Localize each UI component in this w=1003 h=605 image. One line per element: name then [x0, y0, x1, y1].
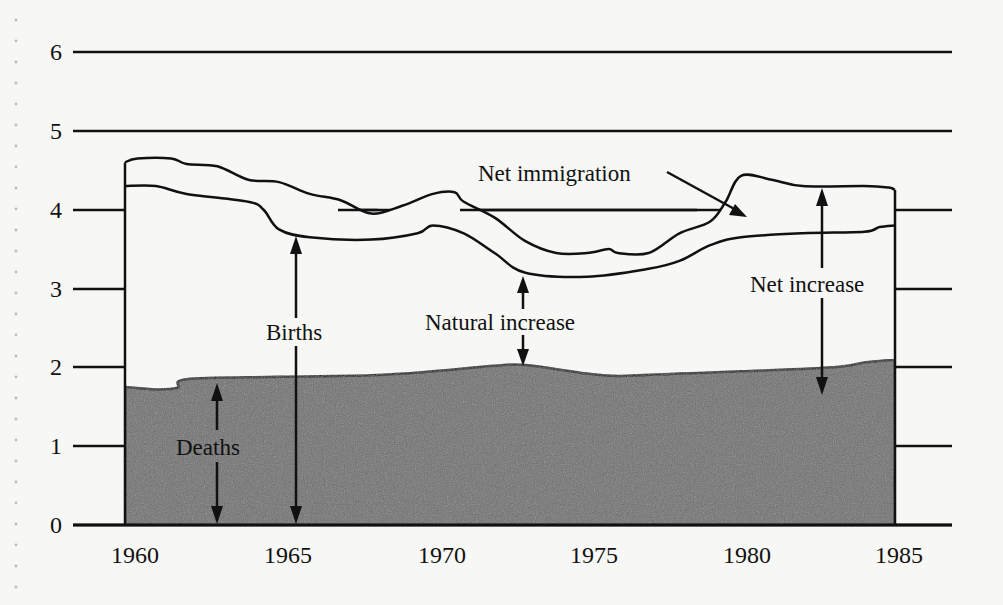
- y-tick-3: 3: [50, 276, 62, 302]
- x-tick-1970: 1970: [418, 542, 466, 568]
- margin-dot: [15, 586, 18, 589]
- margin-dot: [15, 229, 18, 232]
- margin-dot: [15, 166, 18, 169]
- y-tick-6: 6: [50, 39, 62, 65]
- margin-dot: [15, 334, 18, 337]
- margin-dot: [15, 271, 18, 274]
- margin-dot: [15, 208, 18, 211]
- margin-dot: [15, 187, 18, 190]
- margin-dot: [15, 40, 18, 43]
- margin-dot: [15, 61, 18, 64]
- label-natural-increase: Natural increase: [425, 310, 575, 335]
- label-net-increase: Net increase: [750, 272, 864, 297]
- margin-dot: [15, 523, 18, 526]
- net-immigration-arrow: [667, 172, 738, 211]
- y-tick-5: 5: [50, 118, 62, 144]
- margin-dot: [15, 565, 18, 568]
- label-net-immigration: Net immigration: [478, 161, 631, 186]
- margin-dot: [15, 481, 18, 484]
- x-tick-1980: 1980: [723, 542, 771, 568]
- margin-dot: [15, 460, 18, 463]
- margin-dot: [15, 82, 18, 85]
- margin-dot: [15, 103, 18, 106]
- margin-dot: [15, 502, 18, 505]
- population-change-chart: 6 5 4 3 2 1 0 1960 1965 1970 1975 1980 1…: [0, 0, 1003, 605]
- margin-dot: [15, 439, 18, 442]
- margin-dot: [15, 292, 18, 295]
- margin-dot: [15, 145, 18, 148]
- margin-dot: [15, 376, 18, 379]
- x-tick-1965: 1965: [264, 542, 312, 568]
- label-deaths: Deaths: [176, 435, 240, 460]
- margin-dot: [15, 397, 18, 400]
- margin-dot: [15, 313, 18, 316]
- y-axis-labels: 6 5 4 3 2 1 0: [50, 39, 62, 538]
- margin-dot: [15, 418, 18, 421]
- x-axis-labels: 1960 1965 1970 1975 1980 1985: [111, 542, 923, 568]
- margin-dot: [15, 19, 18, 22]
- margin-dot: [15, 355, 18, 358]
- y-tick-4: 4: [50, 197, 62, 223]
- margin-dot: [15, 124, 18, 127]
- x-tick-1960: 1960: [111, 542, 159, 568]
- y-tick-2: 2: [50, 354, 62, 380]
- margin-dot: [15, 250, 18, 253]
- margin-dots: [15, 19, 18, 589]
- y-tick-0: 0: [50, 512, 62, 538]
- x-tick-1985: 1985: [875, 542, 923, 568]
- label-births: Births: [266, 320, 322, 345]
- y-tick-1: 1: [50, 433, 62, 459]
- x-tick-1975: 1975: [570, 542, 618, 568]
- margin-dot: [15, 544, 18, 547]
- deaths-area: [125, 360, 895, 526]
